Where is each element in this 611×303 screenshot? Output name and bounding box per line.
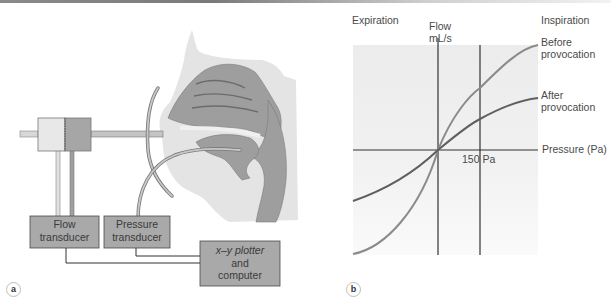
figure-canvas	[0, 0, 611, 303]
plotter-line1: x–y plotter	[200, 244, 280, 257]
after-provocation-line1: After	[541, 89, 563, 101]
nasal-tube	[91, 131, 163, 137]
flow-transducer-label: Flow transducer	[30, 218, 99, 243]
pressure-wire	[136, 248, 200, 256]
flow-transducer-line2: transducer	[30, 231, 99, 244]
expiration-label: Expiration	[352, 14, 399, 26]
flow-transducer-line1: Flow	[30, 218, 99, 231]
before-provocation-line2: provocation	[541, 48, 595, 60]
after-provocation-line2: provocation	[541, 101, 595, 113]
pressure-transducer-line1: Pressure	[104, 218, 170, 231]
before-provocation-line1: Before	[541, 36, 572, 48]
pressure-transducer-line2: transducer	[104, 231, 170, 244]
flow-pressure-chart	[353, 38, 538, 255]
pressure-axis-label: Pressure (Pa)	[542, 143, 607, 155]
panel-b-tag: b	[346, 282, 361, 297]
tick-150pa-label: 150 Pa	[462, 153, 495, 165]
inspiration-label: Inspiration	[541, 14, 589, 26]
pressure-transducer-label: Pressure transducer	[104, 218, 170, 243]
head-anatomy-illustration	[159, 30, 298, 222]
plotter-line3: computer	[200, 269, 280, 282]
pneumotachograph	[38, 118, 91, 151]
flow-axis-label-line2: mL/s	[429, 32, 452, 44]
plotter-line2: and	[200, 257, 280, 270]
plotter-label: x–y plotter and computer	[200, 244, 280, 282]
flow-axis-label-line1: Flow	[429, 20, 451, 32]
panel-a-tag: a	[6, 282, 21, 297]
